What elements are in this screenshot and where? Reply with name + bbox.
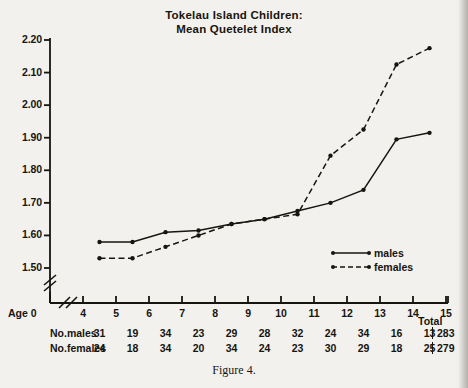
series-line-females xyxy=(100,48,430,258)
table-cell: 28 xyxy=(252,327,278,339)
data-point-males xyxy=(427,131,431,135)
x-axis-origin-label: Age 0 xyxy=(8,307,37,319)
legend-label-males: males xyxy=(374,247,404,259)
series-line-males xyxy=(100,133,430,242)
table-cell: 34 xyxy=(351,327,377,339)
table-cell: 23 xyxy=(285,342,311,354)
table-total-cell: 279 xyxy=(432,342,467,354)
table-cell: 34 xyxy=(153,327,179,339)
table-cell: 18 xyxy=(384,342,410,354)
y-axis-tick-label: 2.10 xyxy=(6,66,42,78)
table-cell: 32 xyxy=(285,327,311,339)
x-axis-tick-label: 5 xyxy=(103,307,129,319)
y-axis-tick-label: 2.20 xyxy=(6,33,42,45)
table-cell: 24 xyxy=(87,342,113,354)
x-axis-tick-label: 9 xyxy=(235,307,261,319)
x-axis-tick-label: 4 xyxy=(70,307,96,319)
table-cell: 34 xyxy=(219,342,245,354)
x-axis-tick-label: 8 xyxy=(202,307,228,319)
data-point-females xyxy=(163,245,167,249)
table-cell: 23 xyxy=(186,327,212,339)
table-cell: 16 xyxy=(384,327,410,339)
table-row: No.females2418342034242330291825279 xyxy=(0,342,468,357)
counts-table: No.males3119342329283224341613283No.fema… xyxy=(0,327,468,357)
x-axis-tick-label: 13 xyxy=(367,307,393,319)
data-point-females xyxy=(394,62,398,66)
data-point-males xyxy=(328,201,332,205)
data-point-males xyxy=(196,228,200,232)
x-axis-tick-label: 7 xyxy=(169,307,195,319)
y-axis-tick-label: 2.00 xyxy=(6,98,42,110)
data-point-females xyxy=(196,233,200,237)
x-axis-tick-label: 11 xyxy=(301,307,327,319)
legend-swatch-males-icon xyxy=(330,247,372,259)
table-row: No.males3119342329283224341613283 xyxy=(0,327,468,342)
data-point-females xyxy=(130,256,134,260)
table-cell: 24 xyxy=(318,327,344,339)
data-point-females xyxy=(328,153,332,157)
table-cell: 18 xyxy=(120,342,146,354)
data-point-males xyxy=(394,137,398,141)
data-point-males xyxy=(130,240,134,244)
figure-container: Tokelau Island Children: Mean Quetelet I… xyxy=(0,0,468,388)
table-cell: 34 xyxy=(153,342,179,354)
data-point-females xyxy=(97,256,101,260)
table-cell: 31 xyxy=(87,327,113,339)
data-point-females xyxy=(361,127,365,131)
data-point-males xyxy=(163,230,167,234)
legend-item-males: males xyxy=(330,246,413,260)
y-axis-tick-label: 1.60 xyxy=(6,228,42,240)
plot-area xyxy=(0,0,468,330)
legend-swatch-females-icon xyxy=(330,261,372,273)
legend-item-females: females xyxy=(330,260,413,274)
x-axis-tick-label: 6 xyxy=(136,307,162,319)
x-axis-tick-label: 12 xyxy=(334,307,360,319)
table-total-header: Total xyxy=(418,315,464,327)
table-cell: 29 xyxy=(219,327,245,339)
y-axis-tick-label: 1.50 xyxy=(6,261,42,273)
data-point-males xyxy=(97,240,101,244)
table-cell: 29 xyxy=(351,342,377,354)
table-cell: 20 xyxy=(186,342,212,354)
chart-legend: males females xyxy=(330,246,413,274)
legend-label-females: females xyxy=(374,261,413,273)
y-axis-tick-label: 1.70 xyxy=(6,196,42,208)
table-cell: 24 xyxy=(252,342,278,354)
table-cell: 19 xyxy=(120,327,146,339)
data-point-females xyxy=(295,212,299,216)
data-point-females xyxy=(427,46,431,50)
data-series xyxy=(97,46,431,260)
figure-caption: Figure 4. xyxy=(0,363,468,378)
table-cell: 30 xyxy=(318,342,344,354)
y-axis-tick-label: 1.80 xyxy=(6,163,42,175)
data-point-females xyxy=(229,222,233,226)
data-point-males xyxy=(361,188,365,192)
data-point-females xyxy=(262,217,266,221)
table-total-cell: 283 xyxy=(432,327,467,339)
x-axis-tick-label: 10 xyxy=(268,307,294,319)
y-axis-tick-label: 1.90 xyxy=(6,131,42,143)
